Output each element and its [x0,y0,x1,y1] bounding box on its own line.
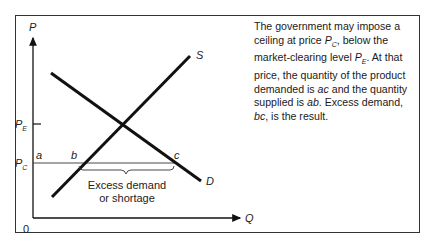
pc-label: PC [15,157,28,171]
shortage-label-line1: Excess demand [88,179,166,191]
supply-label: S [196,49,204,61]
shortage-label-line2: or shortage [99,192,155,204]
x-axis-label: Q [245,212,254,224]
demand-curve [51,73,201,181]
point-a-label: a [36,149,42,161]
pe-label: PE [15,118,27,132]
supply-curve [52,56,190,197]
point-c-label: c [174,149,180,161]
y-axis-label: P [29,21,37,33]
point-b-label: b [71,149,77,161]
shortage-brace [79,166,174,174]
demand-label: D [206,175,214,187]
caption-text: The government may impose a ceiling at p… [254,20,416,123]
origin-label: 0 [23,223,29,235]
